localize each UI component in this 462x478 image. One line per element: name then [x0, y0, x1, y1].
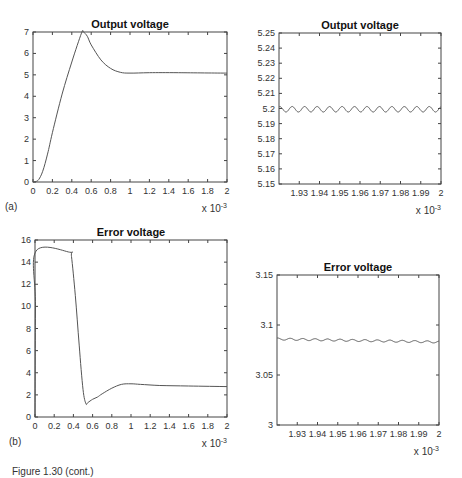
x-tick-label: 1.97: [371, 188, 389, 198]
x-tick-label: 0.2: [46, 186, 59, 196]
x-tick-label: 0.6: [85, 186, 98, 196]
data-series-line: [33, 247, 227, 417]
y-tick-label: 5.23: [257, 58, 275, 68]
x-tick-label: 1.4: [163, 186, 176, 196]
chart-b-left: Error voltage00.20.40.60.811.21.41.61.82…: [9, 226, 230, 449]
axes-box: [35, 240, 227, 417]
y-tick-label: 3: [24, 113, 29, 123]
x-tick-label: 1: [127, 186, 132, 196]
x-tick-label: 1.95: [329, 429, 347, 439]
y-tick-label: 0: [24, 177, 29, 187]
y-tick-label: 7: [24, 27, 29, 37]
chart-a-left: Output voltage00.20.40.60.811.21.41.61.8…: [5, 18, 230, 214]
y-tick-label: 5: [24, 70, 29, 80]
axes-box: [277, 275, 439, 425]
x-tick-label: 0: [30, 186, 35, 196]
chart-a-right: Output voltage1.931.941.951.961.971.981.…: [257, 19, 443, 216]
x-tick-label: 0.4: [66, 186, 79, 196]
y-tick-label: 2: [26, 390, 31, 400]
data-series-line: [277, 338, 439, 343]
axes-box: [279, 33, 441, 184]
x-tick-label: 1.94: [311, 188, 329, 198]
axes-box: [33, 32, 227, 182]
x-tick-label: 1.8: [202, 421, 215, 431]
y-tick-label: 5.22: [257, 73, 275, 83]
x-tick-label: 1.99: [410, 429, 428, 439]
x-tick-label: 2: [438, 188, 443, 198]
y-tick-label: 5.18: [257, 134, 275, 144]
data-series-line: [279, 107, 441, 113]
y-tick-label: 1: [24, 156, 29, 166]
x-tick-label: 1.98: [390, 429, 408, 439]
x-tick-label: 1.93: [288, 429, 306, 439]
y-tick-label: 12: [21, 279, 31, 289]
x-multiplier-label: x 10-3: [202, 437, 227, 449]
x-tick-label: 1.93: [290, 188, 308, 198]
y-tick-label: 3.1: [260, 320, 273, 330]
y-tick-label: 5.2: [262, 104, 275, 114]
y-tick-label: 5.25: [257, 28, 275, 38]
x-tick-label: 0.8: [106, 421, 119, 431]
x-tick-label: 2: [224, 421, 229, 431]
x-tick-label: 1.96: [349, 429, 367, 439]
x-tick-label: 0.2: [48, 421, 61, 431]
panel-label: (b): [9, 436, 21, 447]
panel-label: (a): [5, 201, 17, 212]
x-tick-label: 1.6: [182, 186, 195, 196]
y-tick-label: 3.15: [255, 270, 273, 280]
x-tick-label: 1.4: [163, 421, 176, 431]
x-tick-label: 1: [128, 421, 133, 431]
x-tick-label: 1.8: [201, 186, 214, 196]
y-tick-label: 16: [21, 235, 31, 245]
chart-title: Error voltage: [97, 226, 165, 238]
chart-b-right: Error voltage1.931.941.951.961.971.981.9…: [255, 261, 441, 457]
x-tick-label: 1.99: [412, 188, 430, 198]
y-tick-label: 0: [26, 412, 31, 422]
y-tick-label: 5.24: [257, 43, 275, 53]
x-tick-label: 1.2: [144, 421, 157, 431]
chart-title: Error voltage: [324, 261, 392, 273]
x-tick-label: 1.95: [331, 188, 349, 198]
y-tick-label: 4: [24, 91, 29, 101]
x-tick-label: 1.98: [392, 188, 410, 198]
y-tick-label: 3.05: [255, 370, 273, 380]
y-tick-label: 8: [26, 324, 31, 334]
y-tick-label: 5.19: [257, 119, 275, 129]
y-tick-label: 5.21: [257, 88, 275, 98]
x-tick-label: 1.2: [143, 186, 156, 196]
x-tick-label: 1.94: [309, 429, 327, 439]
y-tick-label: 4: [26, 368, 31, 378]
y-tick-label: 3: [268, 420, 273, 430]
y-tick-label: 6: [24, 48, 29, 58]
y-tick-label: 5.17: [257, 149, 275, 159]
figure: Output voltage00.20.40.60.811.21.41.61.8…: [0, 0, 462, 478]
y-tick-label: 6: [26, 346, 31, 356]
data-series-line: [33, 30, 227, 182]
y-tick-label: 14: [21, 257, 31, 267]
x-tick-label: 0: [32, 421, 37, 431]
figure-caption: Figure 1.30 (cont.): [12, 466, 94, 477]
chart-title: Output voltage: [91, 18, 169, 30]
x-tick-label: 1.6: [182, 421, 195, 431]
y-tick-label: 5.16: [257, 164, 275, 174]
y-tick-label: 2: [24, 134, 29, 144]
x-tick-label: 0.8: [104, 186, 117, 196]
x-multiplier-label: x 10-3: [414, 445, 439, 457]
chart-title: Output voltage: [321, 19, 399, 31]
x-tick-label: 0.6: [86, 421, 99, 431]
y-tick-label: 10: [21, 301, 31, 311]
x-tick-label: 1.96: [351, 188, 369, 198]
x-tick-label: 0.4: [67, 421, 80, 431]
x-multiplier-label: x 10-3: [416, 204, 441, 216]
x-multiplier-label: x 10-3: [202, 202, 227, 214]
y-tick-label: 5.15: [257, 179, 275, 189]
x-tick-label: 2: [436, 429, 441, 439]
x-tick-label: 2: [224, 186, 229, 196]
x-tick-label: 1.97: [369, 429, 387, 439]
